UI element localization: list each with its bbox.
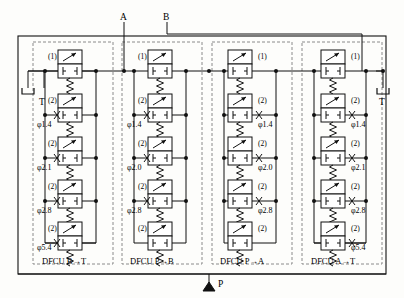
valve-diameter-c4-v5: φ5.4 [351, 243, 366, 252]
valve-diameter-c1-v5: φ5.4 [37, 243, 52, 252]
valve-index-c3-v5: (2) [258, 224, 267, 233]
valve-diameter-c4-v2: φ1.4 [351, 120, 366, 129]
valve-diameter-c4-v3: φ2.1 [351, 163, 366, 172]
valve-index-c2-v5: (2) [138, 224, 147, 233]
valve-index-c4-v4: (2) [351, 182, 360, 191]
valve-diameter-c3-v4: φ2.8 [258, 206, 273, 215]
valve-diameter-c1-v2: φ1.4 [37, 120, 52, 129]
column-dfcu-b-t [43, 50, 98, 266]
tank-symbol-left [22, 88, 34, 94]
valve-index-c2-v1: (1) [138, 52, 147, 61]
circuit-svg [0, 0, 404, 298]
valve-diameter-c2-v2: φ1.4 [127, 120, 142, 129]
valve-index-c3-v3: (2) [258, 139, 267, 148]
group-label-dfcu-p-b: DFCU P→B [130, 256, 174, 266]
valve-index-c4-v1: (1) [351, 52, 360, 61]
column-dfcu-p-a [222, 50, 278, 266]
tank-symbol-right [377, 88, 389, 94]
valve-index-c1-v4: (2) [48, 182, 57, 191]
pressure-source-symbol [203, 282, 215, 291]
valve-index-c4-v3: (2) [351, 139, 360, 148]
p-supply-rail [18, 274, 386, 283]
valve-index-c1-v3: (2) [48, 139, 57, 148]
valve-index-c2-v3: (2) [138, 139, 147, 148]
group-label-dfcu-b-t: DFCU B→T [42, 256, 86, 266]
valve-index-c1-v5: (2) [48, 224, 57, 233]
valve-diameter-c1-v3: φ2.1 [37, 163, 52, 172]
hydraulic-circuit-diagram: T A B T P DFCU B→T DFCU P→B DFCU P→A DFC… [0, 0, 404, 298]
valve-index-c4-v5: (2) [351, 224, 360, 233]
port-label-p: P [218, 279, 223, 289]
valve-diameter-c4-v4: φ2.8 [351, 206, 366, 215]
valve-diameter-c2-v4: φ2.8 [127, 206, 142, 215]
valve-diameter-c3-v2: φ1.4 [258, 120, 273, 129]
valve-diameter-c2-v3: φ2.0 [127, 163, 142, 172]
valve-diameter-c3-v3: φ2.0 [258, 163, 273, 172]
valve-index-c1-v1: (1) [48, 52, 57, 61]
valve-index-c1-v2: (2) [48, 96, 57, 105]
column-dfcu-p-b [132, 50, 188, 266]
valve-index-c3-v1: (1) [258, 52, 267, 61]
port-label-t-left: T [39, 97, 45, 107]
valve-diameter-c1-v4: φ2.8 [37, 206, 52, 215]
valve-index-c2-v4: (2) [138, 182, 147, 191]
group-label-dfcu-p-a: DFCU P→A [220, 256, 264, 266]
column-dfcu-a-t [312, 50, 385, 266]
valve-index-c3-v2: (2) [258, 96, 267, 105]
valve-index-c4-v2: (2) [351, 96, 360, 105]
valve-index-c3-v4: (2) [258, 182, 267, 191]
valve-index-c2-v2: (2) [138, 96, 147, 105]
group-label-dfcu-a-t: DFCU A→T [311, 256, 355, 266]
port-label-t-right: T [379, 97, 385, 107]
port-label-a: A [120, 12, 127, 22]
port-label-b: B [163, 12, 169, 22]
